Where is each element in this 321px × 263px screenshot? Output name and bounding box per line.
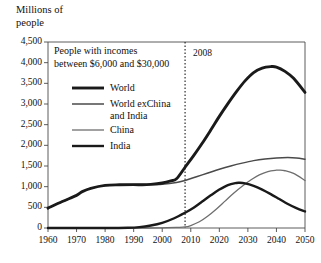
y-tick-label: 3,500 [2, 77, 42, 87]
x-tick-label: 2050 [285, 235, 321, 245]
income-distribution-chart: Millions of people 05001,0001,5002,0002,… [0, 0, 321, 263]
y-tick-label: 4,500 [2, 36, 42, 46]
legend-label-world-exchina-and-india: World exChina and India [110, 98, 171, 121]
y-tick-label: 4,000 [2, 57, 42, 67]
year-marker-label: 2008 [193, 48, 212, 58]
legend-label-china: China [110, 124, 134, 136]
y-tick-label: 2,500 [2, 119, 42, 129]
y-tick-label: 1,000 [2, 181, 42, 191]
legend-label-india: India [110, 140, 131, 152]
y-tick-label: 1,500 [2, 160, 42, 170]
y-tick-label: 500 [2, 201, 42, 211]
legend-label-world: World [110, 82, 135, 94]
legend-title: People with incomes between $6,000 and $… [54, 45, 169, 70]
y-tick-label: 0 [2, 222, 42, 232]
y-tick-label: 2,000 [2, 139, 42, 149]
chart-canvas [0, 0, 321, 263]
y-tick-label: 3,000 [2, 98, 42, 108]
